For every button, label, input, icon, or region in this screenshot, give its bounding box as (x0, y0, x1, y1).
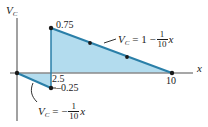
upper-eq-constant: 1 (141, 33, 147, 45)
lower-eq-equals: = (52, 105, 58, 117)
marker-peak-0-75 (49, 26, 53, 30)
upper-eq-lhs-subscript: C (125, 39, 130, 47)
lower-eq-variable: x (80, 105, 85, 117)
y-axis-label-symbol: V (6, 4, 13, 16)
lower-eq-fraction: 110 (68, 102, 79, 122)
lower-equation: VC = −110x (38, 103, 85, 123)
upper-eq-equals: = (132, 33, 138, 45)
min-value-label: –0.25 (56, 83, 79, 93)
marker-origin (15, 71, 19, 75)
chart-canvas (0, 0, 208, 127)
x-axis-label: x (197, 63, 202, 74)
upper-equation-leader (104, 39, 116, 43)
marker-midpoint-a (88, 41, 92, 45)
chart-figure: VC x 0.75 2.5 –0.25 10 VC = 1 −110x VC =… (0, 0, 208, 127)
lower-eq-lhs-subscript: C (45, 111, 50, 119)
zero-x-label: 10 (166, 76, 176, 86)
lower-eq-lhs: V (38, 105, 45, 117)
lower-eq-fraction-denominator: 10 (68, 112, 79, 121)
y-axis-label: VC (6, 5, 17, 18)
y-axis-label-subscript: C (13, 10, 18, 18)
lower-eq-sign: − (61, 105, 67, 117)
peak-value-label: 0.75 (56, 20, 74, 30)
upper-eq-lhs: V (118, 33, 125, 45)
upper-eq-fraction: 110 (157, 30, 168, 50)
upper-eq-fraction-denominator: 10 (157, 40, 168, 49)
upper-eq-sign: − (149, 33, 155, 45)
marker-midpoint-b (125, 55, 129, 59)
lower-equation-leader (31, 83, 37, 102)
x-axis-label-symbol: x (197, 62, 202, 74)
upper-equation: VC = 1 −110x (118, 31, 173, 51)
marker-min-neg-0-25 (49, 86, 53, 90)
upper-eq-variable: x (169, 33, 174, 45)
